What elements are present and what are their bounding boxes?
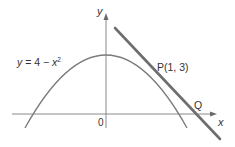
y-axis-label: y [96, 5, 104, 17]
x-axis-arrow-icon [210, 112, 217, 117]
point-p-label: P(1, 3) [157, 61, 189, 73]
point-q-label: Q [194, 99, 202, 111]
y-axis-arrow-icon [104, 13, 109, 20]
origin-label: 0 [98, 117, 104, 128]
curve-equation-label: y = 4 − x2 [16, 56, 61, 68]
x-axis-label: x [217, 116, 224, 128]
tangent-line [115, 28, 220, 139]
parabola-tangent-diagram: y = 4 − x2 P(1, 3) Q 0 x y [0, 0, 235, 147]
